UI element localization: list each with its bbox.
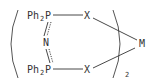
bottom-p-atom: P	[45, 64, 51, 75]
bottom-subscript: 2	[40, 69, 44, 77]
top-ph-label: Ph	[27, 10, 39, 21]
right-parenthesis	[113, 10, 120, 78]
bottom-x-m-bond	[93, 48, 135, 68]
multiplier-subscript: 2	[125, 71, 129, 79]
bottom-n-p-bond	[46, 49, 50, 63]
top-x-atom: X	[84, 10, 90, 21]
left-parenthesis	[11, 10, 18, 78]
bottom-ph-label: Ph	[27, 64, 39, 75]
top-subscript: 2	[40, 15, 44, 23]
top-x-m-bond	[93, 18, 137, 40]
chemical-structure: Ph 2 P X N Ph 2 P X M 2	[0, 0, 156, 82]
bottom-x-atom: X	[84, 64, 90, 75]
top-p-atom: P	[45, 10, 51, 21]
nitrogen-atom: N	[43, 37, 49, 48]
metal-atom: M	[139, 38, 145, 49]
